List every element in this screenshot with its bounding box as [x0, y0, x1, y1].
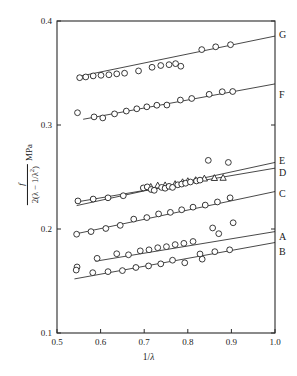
marker-A-7 [164, 244, 170, 250]
x-tick-label-2: 0.7 [139, 337, 151, 347]
marker-G-14 [213, 44, 219, 50]
marker-A-5 [146, 247, 152, 253]
y-axis-label: f 2(λ − 1/λ2) MPa [9, 120, 49, 230]
marker-C-10 [202, 202, 208, 208]
marker-E-cluster-0 [75, 198, 81, 204]
x-tick-label-4: 0.9 [226, 337, 238, 347]
marker-A-12 [210, 225, 216, 231]
marker-G-13 [199, 47, 205, 53]
marker-E-cluster-2 [105, 195, 111, 201]
x-tick-label-5: 1.0 [269, 337, 281, 347]
series-label-D: D [279, 167, 286, 178]
marker-F-3 [112, 111, 118, 117]
marker-C-0 [74, 231, 80, 237]
marker-C-9 [190, 204, 196, 210]
data-marker-group [73, 42, 236, 276]
marker-E-cluster-1 [90, 196, 96, 202]
marker-F-5 [134, 106, 140, 112]
marker-G-7 [136, 68, 142, 74]
marker-G-8 [149, 64, 155, 70]
x-tick-label-1: 0.6 [95, 337, 107, 347]
marker-A-4 [137, 248, 143, 254]
marker-C-8 [179, 207, 185, 213]
fit-line-G [78, 36, 275, 77]
y-axis-unit: MPa [24, 144, 34, 161]
axis-group [57, 21, 275, 333]
marker-C-12 [227, 195, 233, 201]
marker-B-11 [227, 247, 233, 253]
y-tick-label-0: 0.1 [41, 328, 52, 338]
marker-F-12 [219, 89, 225, 95]
y-axis-denominator: 2(λ − 1/λ2) [30, 164, 41, 205]
marker-A-8 [172, 242, 178, 248]
marker-A-14 [230, 220, 236, 226]
marker-G-2 [90, 73, 96, 79]
marker-G-3 [98, 72, 104, 78]
marker-E-cluster-18 [205, 157, 211, 163]
marker-A-9 [181, 240, 187, 246]
marker-C-1 [88, 229, 94, 235]
marker-F-1 [91, 114, 97, 120]
marker-B-8 [182, 260, 188, 266]
marker-G-9 [158, 63, 164, 69]
marker-F-8 [164, 102, 170, 108]
y-axis-numerator: f [17, 181, 26, 190]
marker-B-4 [133, 265, 139, 271]
marker-G-12 [178, 63, 184, 69]
marker-B-5 [146, 263, 152, 269]
marker-C-3 [117, 222, 123, 228]
marker-B-3 [120, 268, 126, 274]
series-label-A: A [279, 231, 287, 242]
marker-E-cluster-3 [120, 193, 126, 199]
x-axis-label: 1/λ [0, 352, 297, 362]
marker-A-2 [114, 251, 120, 257]
x-tick-label-3: 0.8 [182, 337, 194, 347]
series-label-E: E [279, 155, 285, 166]
marker-B-7 [170, 257, 176, 263]
marker-B-9 [197, 251, 203, 257]
series-label-C: C [279, 188, 286, 199]
series-label-group: GFEDCAB [279, 29, 287, 258]
x-tick-label-0: 0.5 [51, 337, 63, 347]
marker-C-7 [167, 209, 173, 215]
mooney-rivlin-figure: 0.50.60.70.80.91.00.10.20.30.4 GFEDCAB f… [0, 0, 297, 376]
y-axis-fraction: f 2(λ − 1/λ2) [17, 164, 40, 205]
fit-line-A [95, 232, 275, 262]
marker-E-cluster-15 [188, 179, 194, 185]
plot-frame [57, 21, 275, 333]
marker-G-0 [77, 75, 83, 81]
marker-F-11 [206, 91, 212, 97]
marker-A-1 [94, 255, 100, 261]
marker-C-6 [156, 211, 162, 217]
marker-C-5 [144, 215, 150, 221]
series-label-B: B [279, 246, 286, 257]
series-label-F: F [279, 89, 285, 100]
marker-E-cluster-17 [197, 177, 203, 183]
marker-B-6 [158, 261, 164, 267]
marker-F-13 [230, 89, 236, 95]
marker-C-2 [103, 226, 109, 232]
marker-B-10 [212, 249, 218, 255]
marker-A-3 [126, 252, 132, 258]
marker-C-11 [215, 199, 221, 205]
marker-C-4 [131, 216, 137, 222]
marker-F-9 [177, 97, 183, 103]
marker-F-6 [144, 104, 150, 110]
x-axis-label-symbol: λ [150, 352, 154, 362]
marker-F-4 [123, 108, 129, 114]
marker-B-2 [105, 269, 111, 275]
marker-E-cluster-19 [225, 160, 231, 166]
marker-G-15 [228, 42, 234, 48]
marker-G-6 [122, 70, 128, 76]
marker-A-6 [155, 245, 161, 251]
marker-F-2 [100, 115, 106, 121]
tick-group [57, 21, 275, 333]
series-label-G: G [279, 29, 286, 40]
marker-E-cluster-7 [151, 187, 157, 193]
marker-F-10 [189, 96, 195, 102]
marker-F-7 [154, 102, 160, 108]
marker-G-1 [83, 74, 89, 80]
marker-G-4 [106, 72, 112, 78]
marker-B-0 [73, 267, 79, 273]
y-tick-label-3: 0.4 [41, 16, 53, 26]
